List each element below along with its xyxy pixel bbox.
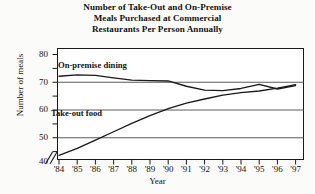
x-tick-label-84: '84 [49,164,69,174]
x-tick-label-94: '94 [231,164,251,174]
x-tick-label-92: '92 [195,164,215,174]
series-label-on-premise-dining: On-premise dining [58,60,127,70]
x-axis-title: Year [0,176,315,186]
y-axis-ticks [53,55,58,152]
x-tick-label-96: '96 [267,164,287,174]
x-tick-label-95: '95 [249,164,269,174]
y-tick-label-60: 60 [26,104,48,114]
x-tick-label-89: '89 [140,164,160,174]
chart-container: Number of Take-Out and On-Premise Meals … [0,0,315,194]
series-label-take-out-food: Take-out food [51,108,102,118]
y-tick-label-40: 40 [26,156,48,166]
x-tick-label-85: '85 [67,164,87,174]
x-tick-label-93: '93 [213,164,233,174]
x-tick-label-87: '87 [104,164,124,174]
y-tick-label-70: 70 [26,77,48,87]
y-axis-title: Number of meals [15,42,25,128]
y-tick-label-50: 50 [26,132,48,142]
x-tick-label-90: '90 [158,164,178,174]
x-tick-label-91: '91 [176,164,196,174]
y-tick-label-80: 80 [26,49,48,59]
x-tick-label-97: '97 [286,164,306,174]
x-tick-label-88: '88 [122,164,142,174]
x-tick-label-86: '86 [85,164,105,174]
